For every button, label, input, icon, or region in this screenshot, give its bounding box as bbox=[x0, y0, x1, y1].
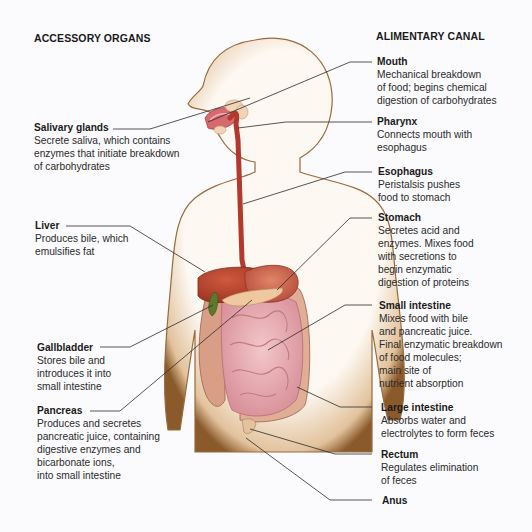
label-name: Large intestine bbox=[381, 401, 531, 414]
label-description: Mechanical breakdown of food; begins che… bbox=[377, 68, 527, 107]
label-description: Produces and secretes pancreatic juice, … bbox=[37, 417, 207, 482]
label-large-intestine: Large intestine Absorbs water and electr… bbox=[381, 401, 531, 440]
label-pancreas: Pancreas Produces and secretes pancreati… bbox=[37, 404, 207, 482]
label-description: Regulates elimination of feces bbox=[381, 461, 531, 487]
heading-alimentary-canal: ALIMENTARY CANAL bbox=[376, 30, 485, 42]
label-pharynx: Pharynx Connects mouth with esophagus bbox=[377, 115, 527, 154]
label-description: Stores bile and introduces it into small… bbox=[37, 354, 167, 393]
label-rectum: Rectum Regulates elimination of feces bbox=[381, 448, 531, 487]
small-intestine-organ bbox=[221, 294, 302, 416]
label-description: Absorbs water and electrolytes to form f… bbox=[381, 414, 531, 440]
label-description: Peristalsis pushes food to stomach bbox=[378, 178, 528, 204]
label-esophagus: Esophagus Peristalsis pushes food to sto… bbox=[378, 165, 528, 204]
label-name: Small intestine bbox=[379, 299, 531, 312]
label-name: Pancreas bbox=[37, 404, 207, 417]
label-name: Mouth bbox=[377, 55, 527, 68]
label-mouth: Mouth Mechanical breakdown of food; begi… bbox=[377, 55, 527, 107]
heading-accessory-organs: ACCESSORY ORGANS bbox=[34, 32, 151, 44]
label-name: Anus bbox=[382, 494, 532, 507]
label-name: Rectum bbox=[381, 448, 531, 461]
label-name: Liver bbox=[35, 219, 165, 232]
label-description: Connects mouth with esophagus bbox=[377, 128, 527, 154]
label-liver: Liver Produces bile, which emulsifies fa… bbox=[35, 219, 165, 258]
label-name: Pharynx bbox=[377, 115, 527, 128]
label-name: Salivary glands bbox=[34, 121, 219, 134]
label-description: Secrete saliva, which contains enzymes t… bbox=[34, 134, 219, 173]
label-stomach: Stomach Secretes acid and enzymes. Mixes… bbox=[378, 211, 528, 289]
label-salivary-glands: Salivary glands Secrete saliva, which co… bbox=[34, 121, 219, 173]
label-description: Mixes food with bile and pancreatic juic… bbox=[379, 312, 531, 390]
label-description: Produces bile, which emulsifies fat bbox=[35, 232, 165, 258]
label-description: Secretes acid and enzymes. Mixes food wi… bbox=[378, 224, 528, 289]
label-name: Esophagus bbox=[378, 165, 528, 178]
label-name: Stomach bbox=[378, 211, 528, 224]
label-small-intestine: Small intestine Mixes food with bile and… bbox=[379, 299, 531, 390]
label-name: Gallbladder bbox=[37, 341, 167, 354]
label-gallbladder: Gallbladder Stores bile and introduces i… bbox=[37, 341, 167, 393]
label-anus: Anus bbox=[382, 494, 532, 507]
